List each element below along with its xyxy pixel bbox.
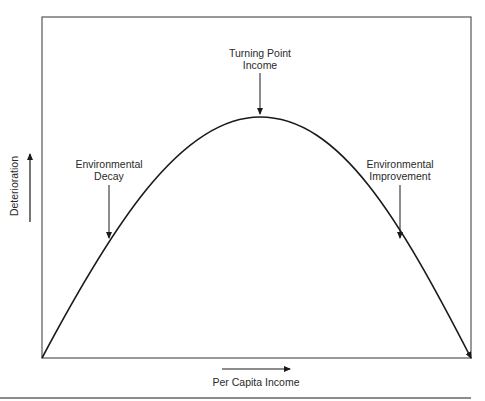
turning-point-line1: Turning Point [215,47,305,59]
turning-point-label: Turning Point Income [215,47,305,71]
decay-line1: Environmental [64,158,154,170]
improvement-line1: Environmental [352,158,448,170]
decay-label: Environmental Decay [64,158,154,182]
kuznets-curve [42,117,471,358]
turning-point-line2: Income [215,59,305,71]
y-axis-label: Deterioration [8,146,20,226]
improvement-label: Environmental Improvement [352,158,448,182]
decay-line2: Decay [64,170,154,182]
x-axis-label: Per Capita Income [196,376,316,388]
improvement-line2: Improvement [352,170,448,182]
